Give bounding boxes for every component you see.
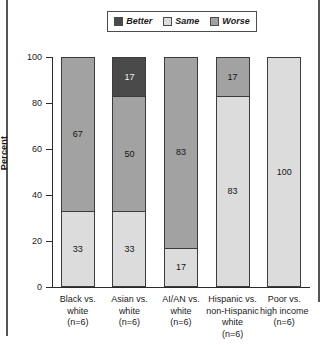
y-tick-label: 0 [37,283,42,292]
bar-segment-same[interactable]: 83 [216,96,250,287]
bar-segment-same[interactable]: 17 [164,248,198,287]
bar-group[interactable]: 175033 [112,57,146,287]
y-tick-label: 20 [32,237,42,246]
bar-group[interactable]: 1783 [216,57,250,287]
bar-segment-value: 17 [228,73,238,82]
legend-label-worse: Worse [222,17,249,26]
legend-swatch-better-icon [114,17,123,26]
bar-segment-value: 17 [124,73,134,82]
y-tick-label: 60 [32,145,42,154]
y-axis-title: Percent [0,136,9,170]
y-tick-label: 80 [32,99,42,108]
bar-segment-value: 50 [124,150,134,159]
page-rule-right [318,0,320,302]
bar-segment-same[interactable]: 33 [112,211,146,287]
chart-legend: Better Same Worse [107,11,257,32]
bar-group[interactable]: 8317 [164,57,198,287]
legend-label-same: Same [175,17,199,26]
bar-segment-value: 33 [73,245,83,254]
legend-label-better: Better [126,17,152,26]
bar-segment-worse[interactable]: 67 [61,57,95,211]
x-axis-category-label: Poor vs. high income (n=6) [254,294,314,329]
legend-item-same: Same [163,17,199,26]
bar-segment-worse[interactable]: 50 [112,96,146,211]
bar-segment-value: 83 [176,148,186,157]
y-tick-mark [46,287,52,288]
legend-item-worse: Worse [210,17,249,26]
x-axis-line [52,287,310,288]
y-tick-label: 40 [32,191,42,200]
bar-segment-value: 83 [228,187,238,196]
legend-swatch-same-icon [163,17,172,26]
bar-segment-value: 17 [176,263,186,272]
bar-segment-value: 33 [124,245,134,254]
legend-item-better: Better [114,17,152,26]
bar-group[interactable]: 6733 [61,57,95,287]
legend-swatch-worse-icon [210,17,219,26]
bar-segment-same[interactable]: 33 [61,211,95,287]
bar-segment-better[interactable]: 17 [112,57,146,96]
bar-segment-same[interactable]: 100 [267,57,301,287]
y-tick-label: 100 [27,53,42,62]
bar-segment-worse[interactable]: 17 [216,57,250,96]
bar-group[interactable]: 100 [267,57,301,287]
plot-area: 673317503383171783100 [52,57,310,287]
bar-segment-worse[interactable]: 83 [164,57,198,248]
bar-segment-value: 67 [73,130,83,139]
bar-segment-value: 100 [277,168,292,177]
